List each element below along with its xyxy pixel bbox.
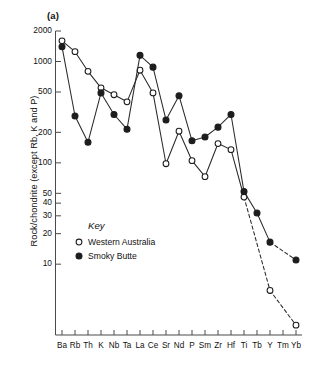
series-segment [244, 192, 257, 213]
data-point-marker [150, 90, 156, 96]
x-axis-ticks: BaRbThKNbTaLaCeSrNdPSmZrHfTiTbYTmYb [57, 330, 301, 350]
data-point-marker [202, 174, 208, 180]
data-point-marker [150, 64, 156, 70]
series-segment [75, 52, 88, 72]
data-point-marker [176, 128, 182, 134]
series-segment [62, 47, 75, 116]
x-tick-label: Tm [277, 341, 289, 350]
x-tick-label: Y [267, 341, 273, 350]
x-tick-label: Ta [123, 341, 132, 350]
y-tick-label: 50 [43, 188, 53, 198]
x-tick-label: La [135, 341, 145, 350]
y-tick-label: 100 [38, 157, 52, 167]
series-segment [127, 70, 140, 102]
data-point-marker [202, 134, 208, 140]
data-point-marker [59, 44, 65, 50]
series-segment [88, 93, 101, 142]
x-tick-label: Ba [57, 341, 67, 350]
x-tick-label: Nd [174, 341, 185, 350]
series-segment [231, 114, 244, 191]
y-tick-label: 500 [38, 86, 52, 96]
x-tick-label: Hf [227, 341, 236, 350]
series-segment [153, 93, 166, 164]
series-segment [166, 131, 179, 163]
x-tick-label: Yb [291, 341, 301, 350]
data-point-marker [293, 257, 299, 263]
series-segment [270, 290, 296, 325]
data-point-marker [72, 113, 78, 119]
x-tick-label: Tb [252, 341, 262, 350]
chart-legend: KeyWestern AustraliaSmoky Butte [76, 220, 155, 261]
data-point-marker [241, 189, 247, 195]
data-point-marker [85, 139, 91, 145]
series-segment [75, 116, 88, 142]
y-tick-label: 200 [38, 127, 52, 137]
legend-entry-label: Western Australia [88, 237, 155, 247]
series-segment [140, 70, 153, 93]
data-series-layer [59, 38, 299, 328]
x-tick-label: P [189, 341, 195, 350]
data-point-marker [293, 322, 299, 328]
data-point-marker [228, 111, 234, 117]
y-axis-ticks: 200010005002001005040302010 [33, 25, 61, 268]
x-tick-label: Rb [70, 341, 81, 350]
y-tick-label: 1000 [33, 56, 52, 66]
data-point-marker [176, 93, 182, 99]
legend-title: Key [88, 220, 106, 231]
data-point-marker [267, 239, 273, 245]
x-tick-label: K [98, 341, 104, 350]
y-tick-label: 20 [43, 228, 53, 238]
series-segment [166, 96, 179, 120]
series-segment [270, 242, 296, 260]
x-tick-label: Sr [162, 341, 170, 350]
y-tick-label: 40 [43, 197, 53, 207]
series-segment [257, 213, 270, 242]
data-point-marker [137, 52, 143, 58]
y-tick-label: 30 [43, 210, 53, 220]
data-point-marker [254, 210, 260, 216]
data-point-marker [215, 141, 221, 147]
y-tick-label: 10 [43, 258, 53, 268]
data-point-marker [163, 117, 169, 123]
data-point-marker [98, 90, 104, 96]
x-tick-label: Zr [214, 341, 222, 350]
plot-area: 200010005002001005040302010 BaRbThKNbTaL… [0, 0, 314, 367]
x-tick-label: Th [83, 341, 93, 350]
data-point-marker [189, 158, 195, 164]
x-tick-label: Sm [199, 341, 211, 350]
data-point-marker [215, 124, 221, 130]
data-point-marker [124, 126, 130, 132]
data-point-marker [267, 288, 273, 294]
data-point-marker [228, 147, 234, 153]
series-segment [127, 55, 140, 129]
x-tick-label: Nb [109, 341, 120, 350]
data-point-marker [189, 138, 195, 144]
data-point-marker [59, 38, 65, 44]
x-tick-label: Ti [241, 341, 248, 350]
filled-circle-marker [76, 253, 82, 259]
legend-entry-label: Smoky Butte [88, 251, 137, 261]
x-tick-label: Ce [148, 341, 159, 350]
y-tick-label: 2000 [33, 25, 52, 35]
data-point-marker [111, 111, 117, 117]
data-point-marker [124, 99, 130, 105]
open-circle-marker [76, 239, 82, 245]
data-point-marker [163, 161, 169, 167]
data-point-marker [72, 49, 78, 55]
data-point-marker [85, 68, 91, 74]
series-segment [205, 144, 218, 177]
spider-diagram-figure: (a) Rock/chondrite (except Rb, K and P) … [0, 0, 314, 367]
data-point-marker [111, 92, 117, 98]
